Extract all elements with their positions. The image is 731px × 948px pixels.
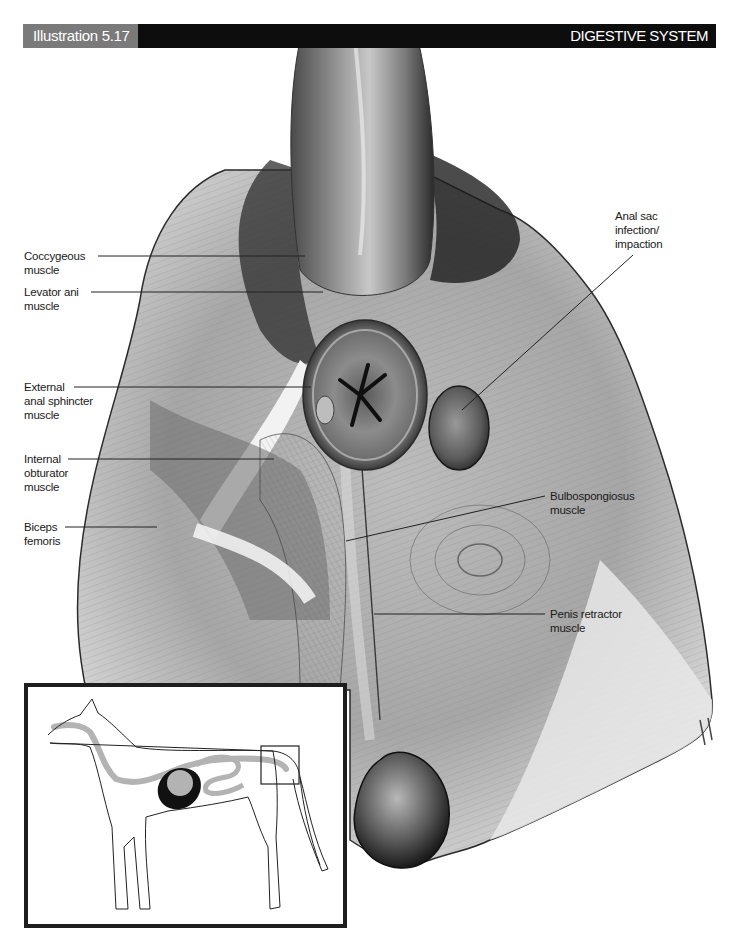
label-biceps-femoris: Biceps femoris <box>24 520 60 548</box>
illustration-number: Illustration 5.17 <box>23 24 138 48</box>
label-line: Coccygeous <box>24 249 85 263</box>
label-line: muscle <box>24 299 79 313</box>
left-anal-sac-opening <box>316 396 334 424</box>
label-bulbospongiosus-muscle: Bulbospongiosus muscle <box>550 489 635 517</box>
label-line: muscle <box>550 503 635 517</box>
label-line: impaction <box>615 237 662 251</box>
dog-tail-outline <box>293 777 328 871</box>
label-line: infection/ <box>615 223 662 237</box>
label-line: muscle <box>24 480 68 494</box>
label-line: femoris <box>24 534 60 548</box>
label-line: Levator ani <box>24 285 79 299</box>
label-line: muscle <box>24 263 85 277</box>
label-line: Bulbospongiosus <box>550 489 635 503</box>
locator-inset <box>24 683 347 928</box>
intestines <box>196 757 243 793</box>
stomach <box>167 770 193 796</box>
dog-outline-icon <box>28 687 343 924</box>
label-coccygeous-muscle: Coccygeous muscle <box>24 249 85 277</box>
label-line: External <box>24 380 93 394</box>
label-internal-obturator-muscle: Internal obturator muscle <box>24 452 68 494</box>
label-line: Internal <box>24 452 68 466</box>
label-external-anal-sphincter-muscle: External anal sphincter muscle <box>24 380 93 422</box>
label-line: anal sphincter <box>24 394 93 408</box>
anus <box>303 320 427 470</box>
label-levator-ani-muscle: Levator ani muscle <box>24 285 79 313</box>
label-line: Biceps <box>24 520 60 534</box>
label-line: Penis retractor <box>550 607 622 621</box>
header-bar: Illustration 5.17 DIGESTIVE SYSTEM <box>23 24 716 48</box>
label-line: Anal sac <box>615 209 662 223</box>
anal-sac-infected <box>429 386 489 470</box>
section-title: DIGESTIVE SYSTEM <box>570 24 708 48</box>
label-penis-retractor-muscle: Penis retractor muscle <box>550 607 622 635</box>
label-line: muscle <box>550 621 622 635</box>
label-line: muscle <box>24 408 93 422</box>
label-line: obturator <box>24 466 68 480</box>
label-anal-sac-infection: Anal sac infection/ impaction <box>615 209 662 251</box>
